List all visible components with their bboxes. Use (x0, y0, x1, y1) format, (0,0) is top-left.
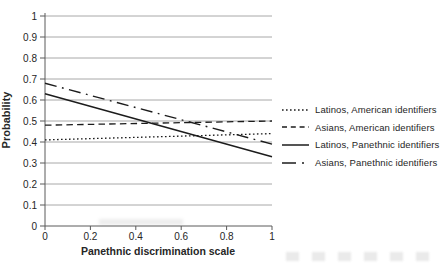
x-tick-label: 0.8 (220, 231, 234, 242)
x-tick-label: 0.2 (83, 231, 97, 242)
y-tick-label: 0.7 (23, 74, 37, 85)
legend-swatch-dashdot-line (281, 158, 310, 168)
y-tick-label: 0.1 (23, 200, 37, 211)
x-tick-label: 0 (42, 231, 48, 242)
legend-item: Asians, Panethnic identifiers (281, 154, 439, 172)
legend-item: Asians, American identifiers (281, 119, 439, 137)
legend-item: Latinos, American identifiers (281, 101, 439, 119)
y-axis-title: Probability (0, 91, 12, 149)
y-tick-label: 0.6 (23, 95, 37, 106)
y-tick-label: 0.9 (23, 32, 37, 43)
y-tick-label: 1 (31, 11, 37, 22)
legend-label: Asians, American identifiers (315, 122, 435, 133)
y-tick-label: 0 (31, 221, 37, 232)
x-tick-label: 0.6 (174, 231, 188, 242)
y-tick-label: 0.3 (23, 158, 37, 169)
legend-item: Latinos, Panethnic identifiers (281, 136, 439, 154)
x-tick-label: 1 (269, 231, 275, 242)
chart-figure: Probability Panethnic discrimination sca… (0, 0, 445, 263)
y-tick-label: 0.4 (23, 137, 37, 148)
series-line-3 (45, 83, 272, 144)
legend-label: Asians, Panethnic identifiers (315, 157, 437, 168)
legend-label: Latinos, Panethnic identifiers (315, 139, 439, 150)
x-axis-title: Panethnic discrimination scale (81, 245, 235, 257)
legend: Latinos, American identifiersAsians, Ame… (281, 101, 439, 171)
y-tick-label: 0.2 (23, 179, 37, 190)
legend-label: Latinos, American identifiers (315, 104, 437, 115)
x-tick-label: 0.4 (129, 231, 143, 242)
y-tick-label: 0.8 (23, 53, 37, 64)
y-tick-label: 0.5 (23, 116, 37, 127)
legend-swatch-solid-line (281, 140, 310, 150)
legend-swatch-dotted-line (281, 105, 310, 115)
legend-swatch-dashed-line (281, 122, 310, 132)
